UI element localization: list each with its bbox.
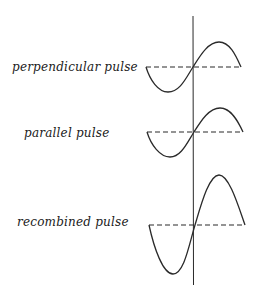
perpendicular-pulse-label: perpendicular pulse — [12, 60, 138, 74]
recombined-pulse-label: recombined pulse — [17, 215, 129, 229]
pulse-diagram — [0, 0, 261, 303]
parallel-pulse-waveform — [147, 108, 243, 157]
vertical-reference-axis — [193, 16, 194, 285]
recombined-pulse-waveform — [149, 175, 245, 274]
parallel-pulse-label: parallel pulse — [24, 126, 109, 140]
